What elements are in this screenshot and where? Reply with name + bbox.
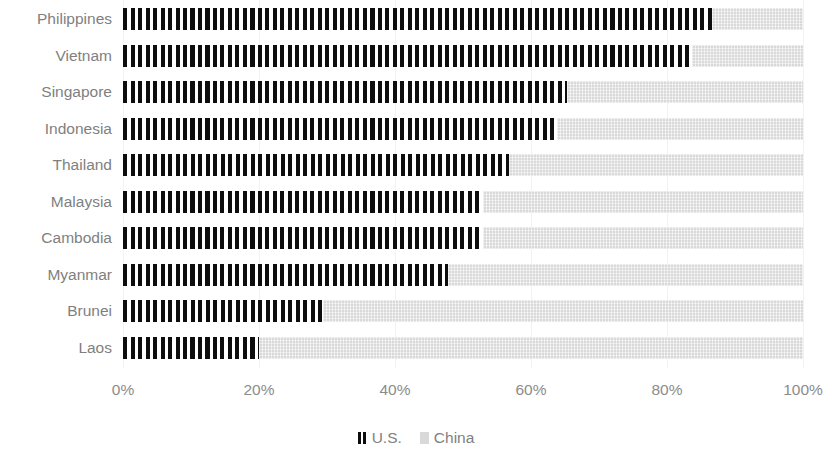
category-label: Laos (0, 337, 112, 359)
bar-row (123, 300, 803, 322)
x-axis-tick-label: 60% (491, 381, 571, 399)
bar-segment-china (692, 45, 803, 67)
category-label: Singapore (0, 81, 112, 103)
bar-segment-china (448, 264, 803, 286)
bar-segment-us (123, 191, 483, 213)
bar-segment-china (557, 118, 803, 140)
chart-legend: U.S.China (0, 428, 832, 447)
x-axis-tick-label: 80% (627, 381, 707, 399)
bar-segment-china (483, 191, 803, 213)
bar-segment-us (123, 154, 509, 176)
bar-segment-china (567, 81, 803, 103)
stacked-bar-chart: PhilippinesVietnamSingaporeIndonesiaThai… (0, 0, 832, 458)
bar-row (123, 264, 803, 286)
legend-label: U.S. (372, 429, 402, 446)
legend-item-us[interactable]: U.S. (358, 428, 402, 447)
x-axis-tick-label: 0% (83, 381, 163, 399)
gridline (803, 0, 804, 368)
bar-row (123, 81, 803, 103)
category-label: Myanmar (0, 264, 112, 286)
bar-segment-us (123, 45, 692, 67)
category-label: Cambodia (0, 227, 112, 249)
bar-row (123, 191, 803, 213)
bar-segment-china (259, 337, 803, 359)
category-label: Brunei (0, 300, 112, 322)
x-axis-tick-label: 100% (763, 381, 832, 399)
legend-label: China (434, 429, 475, 446)
bar-segment-us (123, 264, 448, 286)
bar-segment-us (123, 227, 483, 249)
us-hatch-swatch-icon (358, 432, 367, 444)
china-gray-swatch-icon (420, 432, 429, 444)
bar-row (123, 154, 803, 176)
x-axis-tick-label: 20% (219, 381, 299, 399)
bar-row (123, 337, 803, 359)
category-label: Malaysia (0, 191, 112, 213)
category-label: Indonesia (0, 118, 112, 140)
category-label: Thailand (0, 154, 112, 176)
legend-item-china[interactable]: China (420, 428, 475, 447)
bar-segment-china (712, 8, 803, 30)
bar-segment-us (123, 8, 712, 30)
category-label: Philippines (0, 8, 112, 30)
plot-area (123, 0, 803, 368)
bar-segment-us (123, 337, 259, 359)
bar-segment-china (509, 154, 803, 176)
bar-segment-china (483, 227, 803, 249)
bar-row (123, 8, 803, 30)
bar-segment-us (123, 118, 557, 140)
bar-row (123, 118, 803, 140)
bar-row (123, 227, 803, 249)
bar-segment-china (323, 300, 803, 322)
bar-row (123, 45, 803, 67)
x-axis-tick-label: 40% (355, 381, 435, 399)
bar-segment-us (123, 300, 323, 322)
category-label: Vietnam (0, 45, 112, 67)
bar-segment-us (123, 81, 567, 103)
